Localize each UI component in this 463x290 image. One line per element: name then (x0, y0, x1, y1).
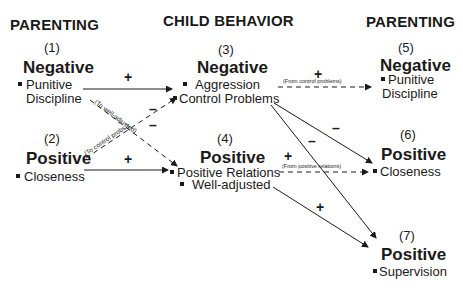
sign-plus-4-7: + (316, 199, 324, 215)
edges-layer: (To well-adjusted) (To control probs.) (… (0, 0, 463, 290)
sign-plus-4-6: + (284, 148, 292, 164)
sign-plus-2-4: + (124, 151, 132, 167)
sign-minus-3-7: – (308, 133, 316, 149)
sign-plus-3-5: + (314, 66, 322, 82)
sign-minus-1-4: – (149, 117, 157, 133)
edge-4-to-7 (273, 187, 368, 247)
sign-minus-2-3: – (149, 101, 157, 117)
edge-note-from-control-problems: (From control problems) (283, 78, 342, 84)
sign-plus-1-3: + (124, 69, 132, 85)
sign-minus-3-6: – (332, 120, 340, 136)
